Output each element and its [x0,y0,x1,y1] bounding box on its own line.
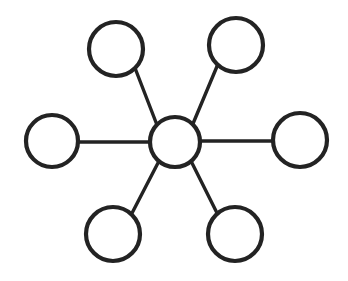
node-top-left[interactable] [89,22,143,76]
node-top-right[interactable] [209,18,263,72]
node-right[interactable] [273,113,327,167]
node-bottom-right[interactable] [208,207,262,261]
star-network-diagram [0,0,348,281]
node-bottom-left[interactable] [86,207,140,261]
node-left[interactable] [26,115,78,167]
hub-node[interactable] [150,117,200,167]
hub-node-group [150,117,200,167]
